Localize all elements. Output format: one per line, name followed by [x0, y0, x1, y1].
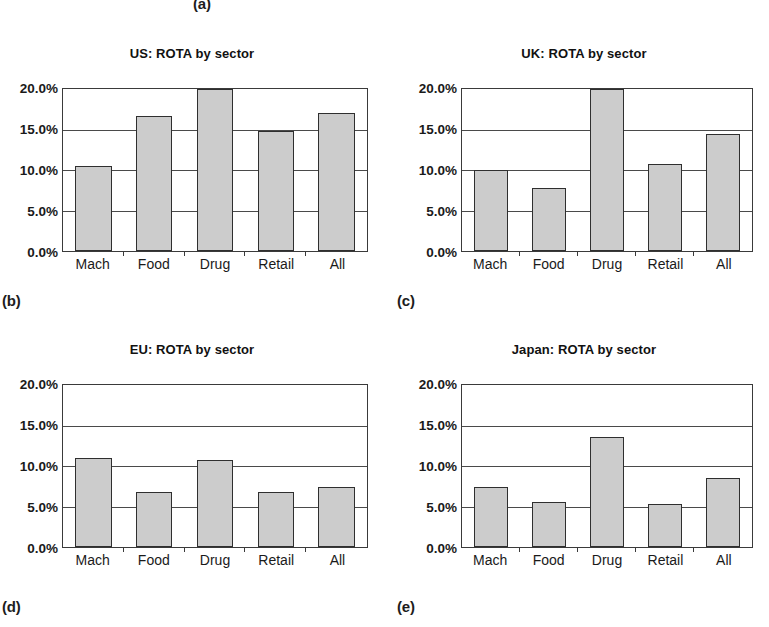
bar-all[interactable] [318, 113, 354, 252]
x-label-mach: Mach [461, 552, 519, 568]
bar-mach[interactable] [474, 487, 509, 547]
bar-food[interactable] [532, 188, 567, 251]
y-tick-label: 10.0% [399, 459, 457, 474]
x-label-food: Food [519, 552, 577, 568]
bar-slot [245, 89, 306, 251]
y-axis-japan: 0.0%5.0%10.0%15.0%20.0% [399, 384, 457, 548]
chart-panel-japan: Japan: ROTA by sector0.0%5.0%10.0%15.0%2… [385, 330, 769, 620]
x-label-mach: Mach [62, 256, 123, 272]
x-label-retail: Retail [246, 256, 307, 272]
x-label-food: Food [123, 552, 184, 568]
bar-slot [636, 89, 694, 251]
plot-area-us [62, 88, 368, 252]
y-tick-label: 10.0% [0, 459, 58, 474]
y-axis-us: 0.0%5.0%10.0%15.0%20.0% [0, 88, 58, 252]
bar-slot [578, 385, 636, 547]
bar-slot [636, 385, 694, 547]
x-label-drug: Drug [184, 256, 245, 272]
y-tick-label: 20.0% [399, 81, 457, 96]
y-tick-label: 0.0% [399, 245, 457, 260]
x-label-all: All [695, 552, 753, 568]
x-label-retail: Retail [246, 552, 307, 568]
y-tick-label: 10.0% [399, 163, 457, 178]
bar-food[interactable] [136, 492, 172, 547]
x-label-retail: Retail [636, 552, 694, 568]
x-label-food: Food [519, 256, 577, 272]
chart-title-uk: UK: ROTA by sector [385, 46, 769, 61]
plot-area-eu [62, 384, 368, 548]
bar-all[interactable] [706, 134, 741, 251]
bar-slot [578, 89, 636, 251]
y-tick-label: 20.0% [0, 377, 58, 392]
x-label-drug: Drug [578, 552, 636, 568]
x-label-all: All [307, 552, 368, 568]
x-label-retail: Retail [636, 256, 694, 272]
bar-slot [520, 385, 578, 547]
x-label-all: All [695, 256, 753, 272]
bar-mach[interactable] [75, 458, 111, 547]
bar-retail[interactable] [258, 492, 294, 547]
x-label-mach: Mach [461, 256, 519, 272]
bar-slot [462, 89, 520, 251]
bar-drug[interactable] [197, 460, 233, 547]
bar-retail[interactable] [648, 164, 683, 251]
bar-slot [694, 385, 752, 547]
bar-drug[interactable] [197, 89, 233, 251]
chart-panel-us: US: ROTA by sector0.0%5.0%10.0%15.0%20.0… [0, 34, 384, 324]
x-axis-labels-uk: MachFoodDrugRetailAll [461, 256, 753, 272]
bar-slot [520, 89, 578, 251]
y-tick-label: 20.0% [0, 81, 58, 96]
bar-all[interactable] [318, 487, 354, 547]
figure-label-a: (a) [193, 0, 211, 12]
x-axis-labels-eu: MachFoodDrugRetailAll [62, 552, 368, 568]
y-tick-label: 10.0% [0, 163, 58, 178]
bar-group-uk [462, 89, 752, 251]
bar-group-japan [462, 385, 752, 547]
bar-mach[interactable] [75, 166, 111, 251]
x-label-food: Food [123, 256, 184, 272]
y-tick-label: 0.0% [0, 245, 58, 260]
bar-slot [306, 89, 367, 251]
y-tick-label: 5.0% [0, 500, 58, 515]
bar-slot [245, 385, 306, 547]
y-axis-uk: 0.0%5.0%10.0%15.0%20.0% [399, 88, 457, 252]
chart-panel-uk: UK: ROTA by sector0.0%5.0%10.0%15.0%20.0… [385, 34, 769, 324]
chart-panel-eu: EU: ROTA by sector0.0%5.0%10.0%15.0%20.0… [0, 330, 384, 620]
plot-area-japan [461, 384, 753, 548]
y-axis-eu: 0.0%5.0%10.0%15.0%20.0% [0, 384, 58, 548]
y-tick-label: 15.0% [399, 418, 457, 433]
bar-slot [63, 89, 124, 251]
bar-group-us [63, 89, 367, 251]
y-tick-label: 15.0% [0, 122, 58, 137]
bar-slot [124, 89, 185, 251]
x-label-mach: Mach [62, 552, 123, 568]
chart-title-eu: EU: ROTA by sector [0, 342, 384, 357]
y-tick-label: 20.0% [399, 377, 457, 392]
bar-slot [63, 385, 124, 547]
bar-drug[interactable] [590, 437, 625, 547]
y-tick-label: 5.0% [399, 204, 457, 219]
y-tick-label: 15.0% [0, 418, 58, 433]
bar-slot [185, 385, 246, 547]
y-tick-label: 15.0% [399, 122, 457, 137]
bar-food[interactable] [136, 116, 172, 251]
chart-title-us: US: ROTA by sector [0, 46, 384, 61]
bar-food[interactable] [532, 502, 567, 547]
x-label-drug: Drug [184, 552, 245, 568]
bar-group-eu [63, 385, 367, 547]
bar-slot [694, 89, 752, 251]
bar-drug[interactable] [590, 89, 625, 251]
chart-title-japan: Japan: ROTA by sector [385, 342, 769, 357]
bar-retail[interactable] [258, 131, 294, 251]
bar-slot [185, 89, 246, 251]
bar-slot [306, 385, 367, 547]
plot-area-uk [461, 88, 753, 252]
y-tick-label: 5.0% [399, 500, 457, 515]
x-axis-labels-japan: MachFoodDrugRetailAll [461, 552, 753, 568]
bar-mach[interactable] [474, 170, 509, 251]
bar-retail[interactable] [648, 504, 683, 547]
y-tick-label: 5.0% [0, 204, 58, 219]
y-tick-label: 0.0% [399, 541, 457, 556]
bar-all[interactable] [706, 478, 741, 547]
x-label-drug: Drug [578, 256, 636, 272]
